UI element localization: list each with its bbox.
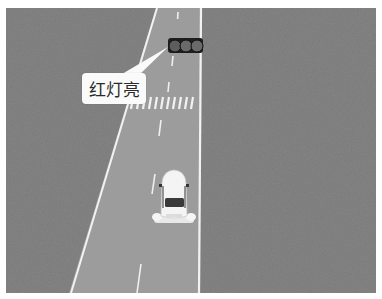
traffic-light-lamp-green xyxy=(191,40,203,52)
traffic-light-lamp-red xyxy=(169,40,181,52)
road-illustration xyxy=(6,8,376,293)
traffic-light-lamp-yellow xyxy=(180,40,192,52)
traffic-light xyxy=(168,38,203,53)
road-scene: 红灯亮 xyxy=(6,8,376,293)
red-light-callout: 红灯亮 xyxy=(82,73,146,104)
